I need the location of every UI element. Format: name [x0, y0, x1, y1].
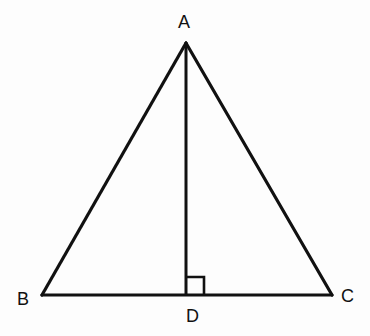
vertex-label-c: C: [341, 287, 354, 305]
side-ab: [42, 43, 186, 295]
right-angle-marker: [186, 277, 204, 295]
triangle-diagram: A B C D: [0, 0, 370, 336]
triangle-svg: [0, 0, 370, 336]
vertex-label-d: D: [186, 307, 199, 325]
vertex-label-a: A: [178, 13, 190, 31]
vertex-label-b: B: [17, 290, 29, 308]
side-ac: [186, 43, 332, 295]
